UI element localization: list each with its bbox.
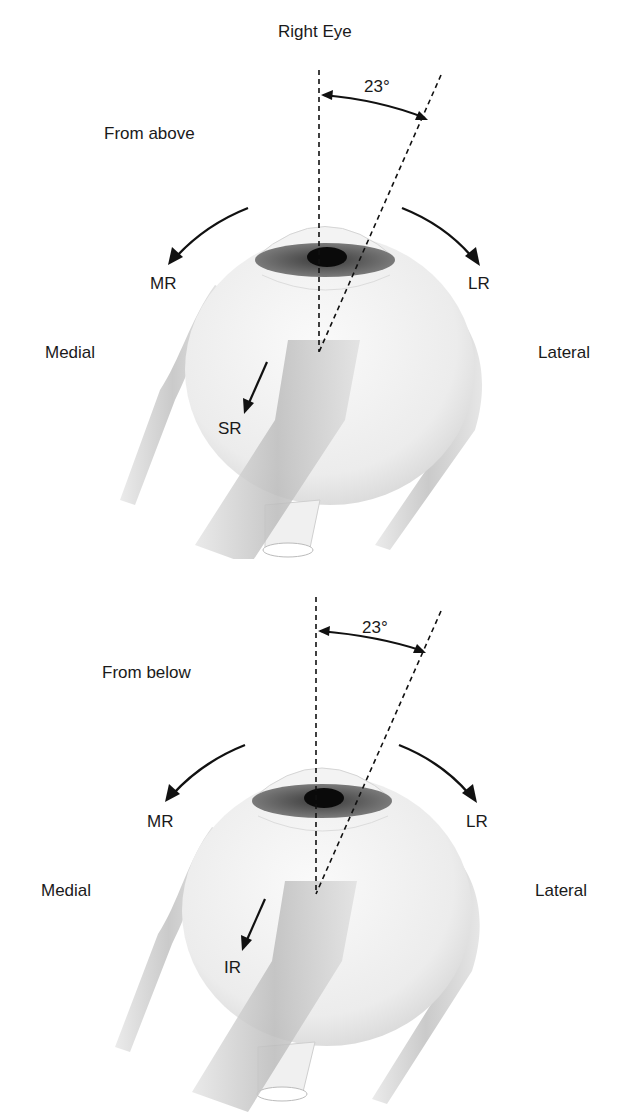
angle-label: 23°	[362, 619, 388, 636]
lateral-label: Lateral	[538, 344, 590, 361]
lateral-label: Lateral	[535, 882, 587, 899]
mr-label: MR	[150, 275, 176, 292]
lr-label: LR	[468, 275, 490, 292]
panel-from-below: From below 23° MR LR Medial Lateral IR	[0, 559, 635, 1118]
mr-label: MR	[147, 813, 173, 830]
eye-illustration-above	[0, 0, 635, 559]
view-label: From above	[104, 125, 195, 142]
lr-label: LR	[466, 813, 488, 830]
ir-label: IR	[224, 959, 241, 976]
sr-label: SR	[218, 420, 242, 437]
medial-label: Medial	[45, 344, 95, 361]
angle-label: 23°	[364, 78, 390, 95]
eye-illustration-below	[0, 559, 635, 1118]
view-label: From below	[102, 664, 191, 681]
panel-from-above: From above 23° MR LR Medial Lateral SR	[0, 0, 635, 559]
medial-label: Medial	[41, 882, 91, 899]
